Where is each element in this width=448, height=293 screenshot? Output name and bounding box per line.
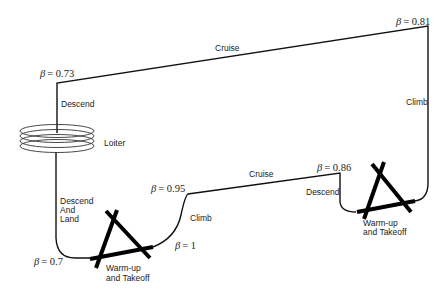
label-takeoff-left-1: Warm-up	[106, 263, 141, 273]
label-descend-left: Descend	[61, 99, 95, 109]
top-cruise-path	[57, 26, 428, 201]
label-cruise-mid: Cruise	[249, 169, 274, 179]
label-descend-mid: Descend	[306, 187, 340, 197]
label-loiter: Loiter	[104, 138, 125, 148]
label-takeoff-right-2: and Takeoff	[363, 227, 407, 237]
beta-label-086: β= 0.86	[316, 162, 351, 173]
beta-label-081: β= 0.81	[395, 16, 430, 27]
label-climb-mid: Climb	[190, 213, 212, 223]
beta-label-095: β= 0.95	[150, 183, 185, 194]
label-cruise-top: Cruise	[215, 43, 240, 53]
label-climb-right: Climb	[406, 97, 428, 107]
beta-label-1: β= 1	[174, 240, 196, 251]
label-takeoff-left-2: and Takeoff	[106, 273, 150, 283]
runway-right-icon	[357, 162, 415, 219]
mission-profile-diagram: Cruise Climb Descend Loiter Descend And …	[0, 0, 448, 293]
label-descend-land-3: Land	[60, 214, 79, 224]
beta-label-07: β= 0.7	[33, 256, 63, 267]
runway-left-icon	[90, 210, 153, 268]
beta-label-073: β= 0.73	[39, 68, 74, 79]
